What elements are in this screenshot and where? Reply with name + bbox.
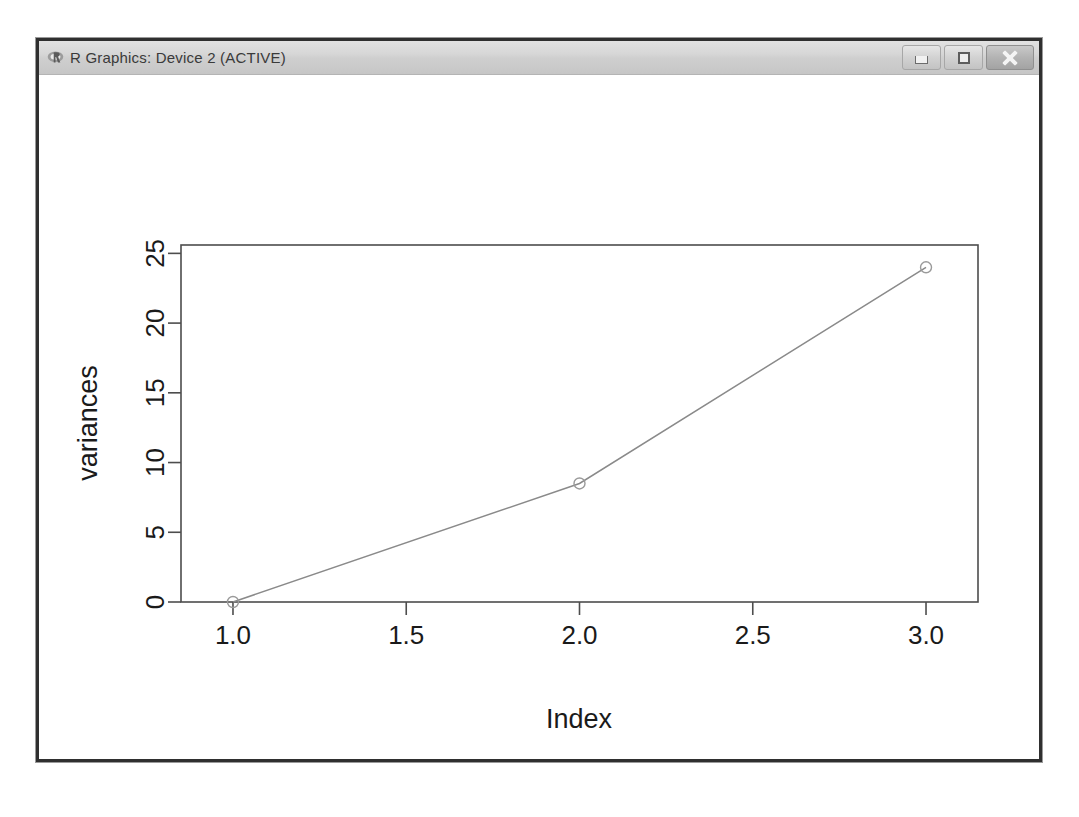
x-tick-label: 2.0: [561, 620, 597, 650]
r-graphics-window: R Graphics: Device 2 (ACTIVE) 0510152025…: [36, 38, 1042, 762]
x-tick-label: 1.5: [388, 620, 424, 650]
maximize-button[interactable]: [944, 45, 983, 70]
close-icon: [1002, 50, 1018, 66]
y-tick-label: 0: [140, 595, 170, 609]
y-axis-title: variances: [73, 365, 103, 481]
window-titlebar[interactable]: R Graphics: Device 2 (ACTIVE): [39, 41, 1039, 75]
x-tick-label: 3.0: [908, 620, 944, 650]
close-button[interactable]: [986, 45, 1034, 70]
maximize-icon: [958, 52, 970, 64]
y-axis-tick-labels: 0510152025: [140, 239, 170, 609]
y-tick-label: 15: [140, 378, 170, 407]
plot-area: 0510152025 1.01.52.02.53.0 Index varianc…: [39, 75, 1039, 758]
data-line-variances: [233, 267, 926, 602]
x-axis-ticks: [233, 602, 926, 615]
data-point-markers: [227, 262, 931, 608]
y-tick-label: 5: [140, 525, 170, 539]
y-axis-ticks: [168, 253, 181, 602]
window-title: R Graphics: Device 2 (ACTIVE): [70, 49, 286, 66]
minimize-icon: [915, 56, 928, 64]
x-tick-label: 1.0: [215, 620, 251, 650]
y-tick-label: 10: [140, 448, 170, 477]
plot-frame: [181, 245, 978, 602]
x-axis-title: Index: [546, 704, 613, 734]
x-tick-label: 2.5: [735, 620, 771, 650]
y-tick-label: 25: [140, 239, 170, 268]
minimize-button[interactable]: [902, 45, 941, 70]
graphics-device-canvas: 0510152025 1.01.52.02.53.0 Index varianc…: [39, 75, 1039, 758]
y-tick-label: 20: [140, 309, 170, 338]
x-axis-tick-labels: 1.01.52.02.53.0: [215, 620, 944, 650]
r-logo-icon: [47, 49, 64, 66]
window-controls: [902, 45, 1034, 70]
